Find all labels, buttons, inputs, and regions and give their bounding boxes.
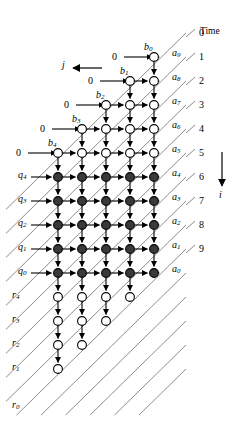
- output-label-r4: r4: [12, 290, 19, 301]
- zero-input-label-3: 0: [40, 123, 45, 134]
- figure-canvas: Time j i a9a8a7a6a5a4a3a2a1a0b0b1b2b3b4q…: [0, 0, 244, 423]
- output-label-r3: r3: [12, 314, 19, 325]
- input-label-q3: q3: [18, 194, 27, 205]
- a-label-subscript: 1: [177, 243, 181, 251]
- b-label-subscript: 3: [77, 117, 81, 125]
- time-tick-label-0: 0: [199, 27, 204, 38]
- time-tick-label-8: 8: [199, 219, 204, 230]
- zero-input-label-1: 0: [88, 75, 93, 86]
- output-label-r1: r1: [12, 362, 19, 373]
- b-label-subscript: 1: [125, 69, 129, 77]
- input-label-q2: q2: [18, 218, 27, 229]
- time-tick-label-5: 5: [199, 147, 204, 158]
- q-label-subscript: 2: [23, 221, 27, 229]
- a-label-subscript: 3: [177, 195, 181, 203]
- output-label-a2: a2: [172, 216, 181, 227]
- input-label-b1: b1: [120, 66, 129, 77]
- output-label-a9: a9: [172, 48, 181, 59]
- time-tick-label-9: 9: [199, 243, 204, 254]
- output-label-a3: a3: [172, 192, 181, 203]
- r-label-subscript: 0: [16, 403, 20, 411]
- input-label-q0: q0: [18, 266, 27, 277]
- a-label-subscript: 4: [177, 171, 181, 179]
- q-label-subscript: 4: [23, 173, 27, 181]
- time-tick-label-2: 2: [199, 75, 204, 86]
- time-tick-label-6: 6: [199, 171, 204, 182]
- time-tick-label-4: 4: [199, 123, 204, 134]
- r-label-subscript: 2: [16, 341, 20, 349]
- b-label-subscript: 0: [149, 45, 153, 53]
- r-label-subscript: 3: [16, 317, 20, 325]
- q-input-lines: [31, 177, 51, 273]
- i-axis-label: i: [219, 190, 222, 200]
- output-label-r0: r0: [12, 400, 19, 411]
- b-label-subscript: 2: [101, 93, 105, 101]
- output-label-a7: a7: [172, 96, 181, 107]
- q-label-subscript: 1: [23, 245, 27, 253]
- horizontal-edges: [62, 57, 159, 273]
- r-label-subscript: 4: [16, 293, 20, 301]
- time-tick-label-7: 7: [199, 195, 204, 206]
- time-tick-marks: [186, 29, 195, 253]
- time-tick-label-3: 3: [199, 99, 204, 110]
- zero-input-label-4: 0: [16, 147, 21, 158]
- output-label-a0: a0: [172, 264, 181, 275]
- zero-input-label-0: 0: [112, 51, 117, 62]
- b-label-subscript: 4: [53, 141, 57, 149]
- a-label-subscript: 6: [177, 123, 181, 131]
- zero-input-label-2: 0: [64, 99, 69, 110]
- input-label-b4: b4: [48, 138, 57, 149]
- a-label-subscript: 8: [177, 75, 181, 83]
- input-label-b0: b0: [144, 42, 153, 53]
- q-label-subscript: 0: [23, 269, 27, 277]
- output-label-a5: a5: [172, 144, 181, 155]
- output-label-a8: a8: [172, 72, 181, 83]
- output-label-a6: a6: [172, 120, 181, 131]
- output-label-r2: r2: [12, 338, 19, 349]
- input-label-q4: q4: [18, 170, 27, 181]
- output-label-a1: a1: [172, 240, 181, 251]
- input-label-q1: q1: [18, 242, 27, 253]
- time-tick-label-1: 1: [199, 51, 204, 62]
- output-label-a4: a4: [172, 168, 181, 179]
- input-label-b2: b2: [96, 90, 105, 101]
- a-label-subscript: 2: [177, 219, 181, 227]
- j-axis-label: j: [62, 60, 65, 70]
- systolic-array-diagram: [0, 0, 244, 423]
- input-label-b3: b3: [72, 114, 81, 125]
- q-label-subscript: 3: [23, 197, 27, 205]
- r-label-subscript: 1: [16, 365, 20, 373]
- a-label-subscript: 9: [177, 51, 181, 59]
- a-label-subscript: 0: [177, 267, 181, 275]
- a-label-subscript: 5: [177, 147, 181, 155]
- a-label-subscript: 7: [177, 99, 181, 107]
